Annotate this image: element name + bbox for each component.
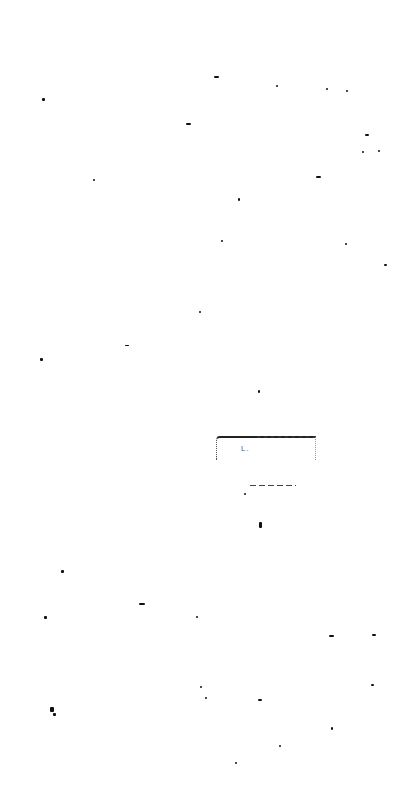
noise-speck xyxy=(61,570,64,573)
noise-speck xyxy=(258,390,260,393)
noise-speck xyxy=(371,684,374,686)
input-text: L. xyxy=(241,444,250,453)
noise-speck xyxy=(205,697,207,699)
noise-speck xyxy=(316,176,321,178)
noise-speck xyxy=(346,90,348,92)
noise-speck xyxy=(362,151,364,153)
noise-speck xyxy=(44,616,47,619)
noise-speck xyxy=(50,707,54,712)
input-border-fragment xyxy=(257,436,315,438)
noise-speck xyxy=(186,123,191,125)
noise-speck xyxy=(279,745,281,747)
noise-speck xyxy=(214,76,219,78)
noise-speck xyxy=(258,699,262,701)
noise-speck xyxy=(40,358,43,361)
noise-speck xyxy=(238,198,240,201)
noise-speck xyxy=(199,311,201,313)
noise-speck xyxy=(331,727,333,730)
noise-speck xyxy=(53,713,56,716)
noise-speck xyxy=(139,603,145,605)
noise-speck xyxy=(365,134,369,136)
noise-speck xyxy=(259,522,262,528)
noise-speck xyxy=(125,345,129,346)
noise-speck xyxy=(244,493,246,495)
noise-speck xyxy=(378,150,380,152)
noise-speck xyxy=(276,85,278,87)
noise-speck xyxy=(221,240,223,242)
noise-speck xyxy=(372,634,376,636)
noise-speck xyxy=(42,98,45,101)
noise-speck xyxy=(200,686,202,688)
noise-speck xyxy=(93,179,95,181)
noise-speck xyxy=(196,616,198,618)
noise-speck xyxy=(329,635,334,637)
noise-speck xyxy=(326,88,328,90)
noise-speck xyxy=(235,762,237,764)
text-input-field[interactable]: L. xyxy=(216,436,316,460)
screen: L. xyxy=(0,0,414,799)
noise-speck xyxy=(384,264,387,266)
noise-speck xyxy=(345,243,347,245)
underline-divider xyxy=(250,485,296,486)
